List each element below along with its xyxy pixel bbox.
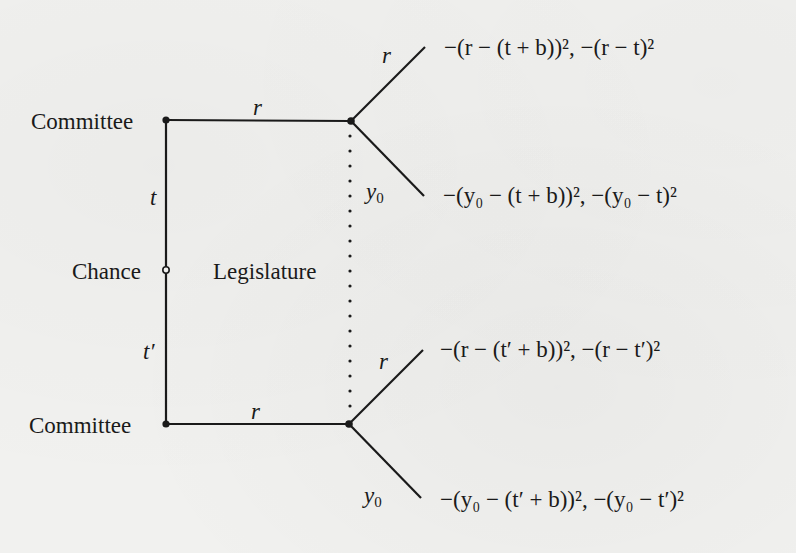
legislature-bottom-edge-y0 [349, 424, 421, 498]
legislature-top-action-r: r [382, 44, 391, 67]
chance-move-t-label: t [150, 186, 156, 209]
chance-node [163, 267, 169, 273]
committee-bottom-label: Committee [29, 414, 131, 437]
payoff-bottom-r: −(r − (t′ + b))², −(r − t′)² [440, 338, 660, 361]
chance-move-t-prime-label: t′ [143, 340, 154, 363]
committee-bottom-node [162, 420, 169, 427]
legislature-bottom-action-y0: y0 [364, 484, 382, 507]
legislature-top-node [347, 117, 355, 125]
legislature-bottom-node [345, 420, 353, 428]
legislature-label: Legislature [213, 260, 316, 283]
legislature-bottom-action-r: r [379, 350, 388, 373]
committee-top-label: Committee [31, 110, 133, 133]
payoff-top-r: −(r − (t + b))², −(r − t)² [444, 36, 654, 59]
committee-top-node [162, 116, 169, 123]
chance-label: Chance [72, 260, 141, 283]
committee-top-action-r: r [253, 96, 262, 119]
payoff-top-y0: −(y₀ − (t + b))², −(y₀ − t)² [443, 184, 677, 207]
committee-top-edge-r [166, 120, 351, 121]
committee-bottom-action-r: r [251, 400, 260, 423]
legislature-top-edge-y0 [351, 121, 424, 196]
payoff-bottom-y0: −(y₀ − (t′ + b))², −(y₀ − t′)² [440, 488, 684, 511]
legislature-top-action-y0: y0 [366, 180, 384, 203]
